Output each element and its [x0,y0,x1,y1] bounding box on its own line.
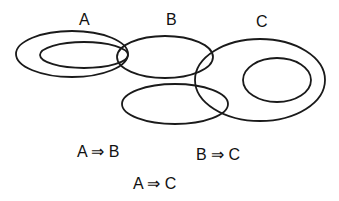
statement-a-implies-b: A ⇒ B [77,143,119,160]
statement-a-implies-c: A ⇒ C [133,175,176,192]
set-c-outer-ellipse [195,39,325,121]
set-c-inner-ellipse [243,58,311,102]
label-b: B [166,11,177,28]
statement-b-implies-c: B ⇒ C [196,146,240,163]
euler-diagram: A B C A ⇒ B B ⇒ C A ⇒ C [0,0,339,201]
set-a-inner-ellipse [40,42,128,68]
set-b-ellipse [117,36,213,78]
label-a: A [79,11,90,28]
set-b-lower-ellipse [122,84,228,124]
set-a-outer-ellipse [16,31,128,77]
label-c: C [256,13,268,30]
